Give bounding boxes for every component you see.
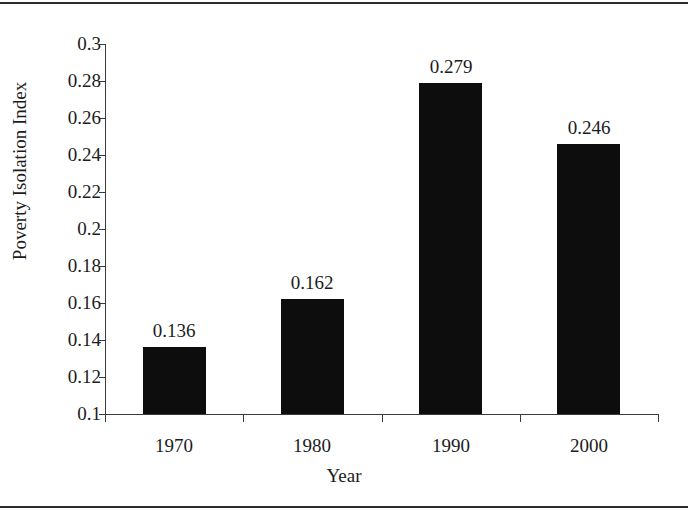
y-axis-tick-label: 0.18 (68, 256, 101, 275)
bar-value-label: 0.162 (252, 273, 372, 292)
plot-area: 0.10.120.140.160.180.20.220.240.260.280.… (105, 44, 658, 414)
x-axis-tick-mark (520, 414, 521, 422)
y-axis-line (105, 44, 106, 415)
x-axis-tick-label: 1980 (243, 436, 381, 455)
y-axis-tick-label: 0.16 (68, 293, 101, 312)
y-axis-tick-label: 0.2 (77, 219, 101, 238)
x-axis-tick-mark (243, 414, 244, 422)
bar (419, 83, 482, 414)
bar (557, 144, 620, 414)
y-axis-tick-label: 0.28 (68, 71, 101, 90)
page-rule-bottom (0, 506, 688, 508)
bar-chart-figure: Poverty Isolation Index 0.10.120.140.160… (0, 0, 688, 518)
y-axis-tick-label: 0.1 (77, 404, 101, 423)
y-axis-tick-label: 0.12 (68, 367, 101, 386)
x-axis-tick-mark (382, 414, 383, 422)
y-axis-tick-label: 0.22 (68, 182, 101, 201)
x-axis-tick-label: 2000 (520, 436, 658, 455)
bar-value-label: 0.279 (391, 57, 511, 76)
x-axis-tick-mark (105, 414, 106, 422)
bar-value-label: 0.136 (114, 321, 234, 340)
y-axis-tick-label: 0.3 (77, 34, 101, 53)
bar-value-label: 0.246 (529, 118, 649, 137)
y-axis-title: Poverty Isolation Index (9, 0, 31, 451)
y-axis-tick-label: 0.14 (68, 330, 101, 349)
x-axis-tick-label: 1990 (382, 436, 520, 455)
bar (143, 347, 206, 414)
x-axis-title: Year (0, 465, 688, 487)
x-axis-tick-mark (658, 414, 659, 422)
y-axis-tick-label: 0.24 (68, 145, 101, 164)
bar (281, 299, 344, 414)
y-axis-tick-label: 0.26 (68, 108, 101, 127)
page-rule-top (0, 2, 688, 4)
x-axis-tick-label: 1970 (105, 436, 243, 455)
